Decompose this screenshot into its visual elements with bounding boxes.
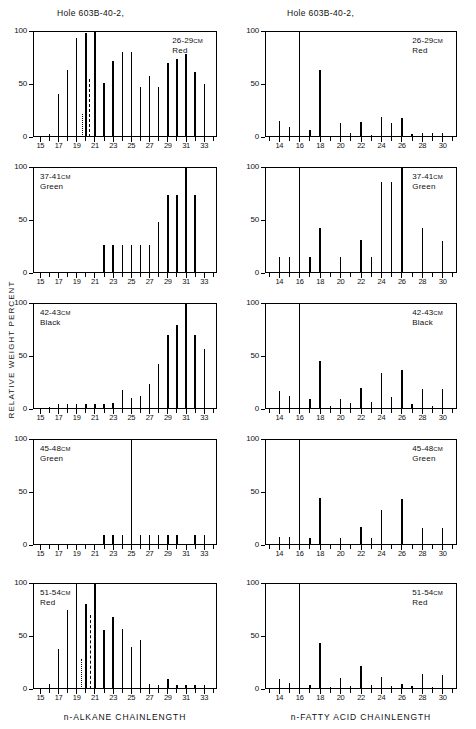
y-tick: [29, 492, 33, 493]
bar-c17: [58, 649, 59, 689]
bar-c20: [340, 257, 341, 273]
x-tick-29: [432, 273, 433, 277]
x-tick-20: [85, 689, 86, 693]
y-tick-label-50: 50: [239, 631, 259, 640]
column-title-left: Hole 603B-40-2,: [57, 8, 124, 18]
y-tick: [261, 439, 265, 440]
bar-c25: [391, 182, 392, 273]
bar-c29: [167, 195, 168, 273]
bar-c18: [67, 610, 68, 690]
bar-c22: [103, 83, 104, 137]
plot-panel-fattyacid-51-54: 05010014161820222426283051-54CMRed: [265, 583, 457, 689]
annotation-unit: CM: [61, 310, 71, 316]
x-tick-label-15: 15: [31, 277, 49, 286]
x-tick-15: [289, 545, 290, 549]
y-tick-label-0: 0: [7, 404, 27, 413]
y-tick: [29, 409, 33, 410]
annotation-depth: 45-48: [412, 444, 433, 453]
bar-c31: [185, 167, 186, 273]
x-tick-label-27: 27: [141, 277, 159, 286]
panel-annotation-fattyacid-37-41: 37-41CMGreen: [412, 172, 443, 192]
bar-c33: [204, 535, 205, 545]
y-tick-label-100: 100: [7, 162, 27, 171]
x-tick-label-14: 14: [270, 413, 288, 422]
x-tick-18: [67, 689, 68, 693]
annotation-unit: CM: [193, 38, 203, 44]
x-tick-label-14: 14: [270, 693, 288, 702]
x-tick-26: [140, 409, 141, 413]
bar-c18: [319, 361, 320, 409]
x-tick-label-28: 28: [413, 413, 431, 422]
bar-c27: [149, 245, 150, 273]
panel-annotation-alkane-26-29: 26-29CMRed: [172, 36, 203, 56]
x-tick-16: [49, 409, 50, 413]
bar-c31: [185, 303, 186, 409]
bar-c26: [140, 87, 141, 137]
plot-panel-fattyacid-26-29: 05010014161820222426283026-29CMRed: [265, 31, 457, 137]
x-tick-29: [432, 137, 433, 141]
x-tick-label-31: 31: [177, 693, 195, 702]
y-tick: [29, 356, 33, 357]
annotation-depth: 42-43: [412, 308, 433, 317]
bar-c26: [140, 396, 141, 409]
bar-c25: [391, 397, 392, 409]
x-tick-17: [309, 273, 310, 277]
annotation-unit: CM: [433, 446, 443, 452]
x-tick-label-18: 18: [311, 277, 329, 286]
x-axis-label-fattyacid: n-FATTY ACID CHAINLENGTH: [265, 712, 457, 722]
bar-c22: [360, 122, 361, 137]
x-tick-20: [85, 545, 86, 549]
bar-c18: [319, 498, 320, 545]
panel-annotation-alkane-51-54: 51-54CMRed: [40, 588, 71, 608]
y-tick-label-50: 50: [7, 487, 27, 496]
bar-c23: [371, 538, 372, 545]
annotation-depth: 26-29: [412, 36, 433, 45]
x-tick-label-25: 25: [122, 549, 140, 558]
bar-c25: [131, 52, 132, 137]
x-tick-27: [412, 273, 413, 277]
x-tick-label-27: 27: [141, 549, 159, 558]
y-tick-label-100: 100: [239, 26, 259, 35]
x-tick-label-18: 18: [311, 549, 329, 558]
panel-annotation-alkane-42-43: 42-43CMBlack: [40, 308, 71, 328]
bar-c29: [167, 679, 168, 689]
bar-c26: [140, 640, 141, 689]
bar-c29: [167, 63, 168, 137]
y-axis-label: RELATIVE WEIGHT PERCENT: [7, 275, 16, 425]
annotation-unit: CM: [433, 310, 443, 316]
x-tick-32: [195, 409, 196, 413]
bar-c25: [131, 245, 132, 273]
y-tick-label-100: 100: [239, 162, 259, 171]
x-tick-label-26: 26: [393, 141, 411, 150]
x-tick-21: [350, 137, 351, 141]
x-tick-21: [350, 689, 351, 693]
bar-c14: [279, 679, 280, 689]
annotation-unit: CM: [433, 174, 443, 180]
y-tick: [261, 492, 265, 493]
y-tick-label-0: 0: [239, 268, 259, 277]
x-tick-label-24: 24: [372, 141, 390, 150]
x-tick-16: [49, 273, 50, 277]
x-tick-25: [391, 137, 392, 141]
bar-c22: [103, 630, 104, 689]
x-tick-28: [158, 409, 159, 413]
x-tick-30: [176, 689, 177, 693]
x-tick-label-20: 20: [332, 277, 350, 286]
bar-c22: [360, 240, 361, 273]
x-tick-27: [412, 545, 413, 549]
x-tick-32: [195, 689, 196, 693]
x-tick-26: [140, 273, 141, 277]
x-tick-label-31: 31: [177, 549, 195, 558]
bar-c26: [401, 499, 402, 545]
y-tick: [29, 220, 33, 221]
y-tick-label-100: 100: [239, 578, 259, 587]
bar-c23: [112, 245, 113, 273]
x-tick-16: [49, 689, 50, 693]
x-tick-34: [213, 689, 214, 693]
x-tick-16: [49, 137, 50, 141]
bar-c25: [131, 647, 132, 689]
plot-panel-alkane-37-41: 0501001517192123252729313337-41CMGreen: [33, 167, 217, 273]
bar-c30: [176, 59, 177, 137]
bar-c15: [289, 257, 290, 273]
bar-c28: [158, 535, 159, 545]
